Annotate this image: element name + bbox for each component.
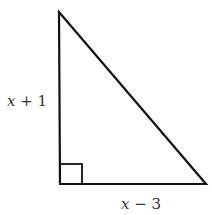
right-triangle <box>59 12 206 184</box>
horizontal-leg-label: x − 3 <box>121 195 161 213</box>
vertical-leg-label: x + 1 <box>7 92 47 110</box>
triangle-diagram: x + 1 x − 3 <box>0 0 212 215</box>
right-angle-marker <box>60 164 82 184</box>
